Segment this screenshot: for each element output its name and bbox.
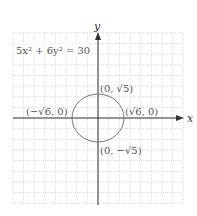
ellipse-chart: 5x² + 6y² = 30 x y (0, √5) (√6, 0) (−√6,… <box>0 0 197 216</box>
label-right-vertex: (√6, 0) <box>125 106 158 117</box>
label-bottom-vertex: (0, −√5) <box>100 145 142 156</box>
label-top-vertex: (0, √5) <box>100 83 133 94</box>
label-left-vertex: (−√6, 0) <box>26 106 68 117</box>
y-axis-arrow-icon <box>95 32 101 40</box>
x-axis-arrow-icon <box>176 115 184 121</box>
equation-label: 5x² + 6y² = 30 <box>16 45 90 56</box>
y-axis-label: y <box>93 20 101 33</box>
x-axis-label: x <box>187 112 194 125</box>
